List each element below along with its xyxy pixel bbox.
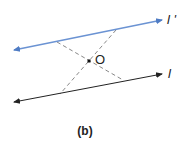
label-l: l [168, 66, 171, 81]
label-o: O [95, 52, 105, 67]
line-l-prime [14, 20, 162, 50]
label-l-prime: l ' [167, 12, 176, 27]
point-o [88, 60, 91, 63]
caption: (b) [0, 124, 170, 138]
line-l [14, 74, 162, 102]
